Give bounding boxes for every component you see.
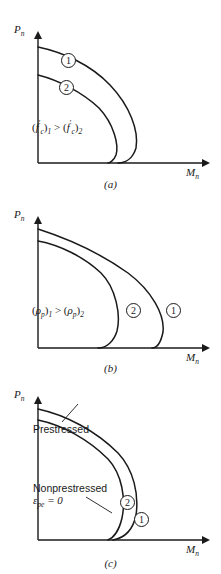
y-axis-label-a: Pn [14, 24, 24, 38]
curve-marker-1-panel-a: 1 [61, 53, 76, 68]
curve-1-panel-a [38, 47, 137, 163]
annotation-panel-b: (ρp)1 > (ρp)2 [32, 305, 84, 319]
panel-a-plot [0, 0, 221, 191]
figure-container: Pn Mn 1 2 (f′c)1 > (f′c)2 (a) Pn M [0, 0, 221, 574]
y-axis-label-b: Pn [14, 209, 24, 223]
curve-marker-2-panel-c: 2 [120, 495, 135, 510]
panel-b: Pn Mn 2 1 (ρp)1 > (ρp)2 (b) [0, 185, 221, 375]
curve-marker-2-panel-a: 2 [59, 80, 74, 95]
curve-2-panel-a [38, 75, 117, 163]
curve-2-panel-b [38, 241, 118, 348]
panel-a: Pn Mn 1 2 (f′c)1 > (f′c)2 (a) [0, 0, 221, 191]
x-axis-label-c: Mn [186, 544, 199, 558]
panel-c: Pn Mn Prestressed Nonprestressed εpe = 0… [0, 375, 221, 574]
callout-nonprestressed: Nonprestressed εpe = 0 [33, 482, 107, 510]
caption-b: (b) [0, 363, 221, 374]
curve-marker-1-panel-b: 1 [166, 303, 181, 318]
curve-2-panel-c [38, 420, 123, 540]
callout-prestressed: Prestressed [33, 423, 89, 435]
callout-nonprestressed-line2: εpe = 0 [33, 494, 63, 506]
caption-c: (c) [0, 558, 221, 569]
panel-b-plot [0, 185, 221, 375]
callout-nonprestressed-line1: Nonprestressed [33, 482, 107, 494]
curve-marker-1-panel-c: 1 [134, 512, 149, 527]
y-axis-label-c: Pn [14, 389, 24, 403]
annotation-panel-a: (f′c)1 > (f′c)2 [32, 120, 82, 135]
curve-marker-2-panel-b: 2 [126, 303, 141, 318]
